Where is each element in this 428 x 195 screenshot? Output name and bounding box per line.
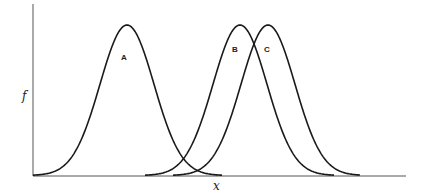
distribution-chart: A B C f x	[0, 0, 428, 195]
curve-a	[33, 25, 222, 175]
curve-b	[145, 25, 334, 175]
label-a: A	[121, 53, 127, 62]
y-axis-title: f	[21, 89, 29, 103]
label-b: B	[232, 45, 238, 54]
x-axis-title: x	[213, 179, 220, 193]
label-c: C	[264, 45, 270, 54]
